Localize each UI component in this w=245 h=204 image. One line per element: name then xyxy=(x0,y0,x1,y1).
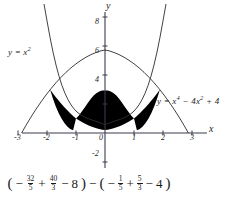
curve-label-parabola: y = x2 xyxy=(8,48,31,57)
formula-plus-2: + xyxy=(126,176,133,192)
curve-label-quartic-mid: − 4x xyxy=(180,96,200,106)
formula-minus-4: − xyxy=(146,176,153,192)
formula-fraction-32-5-denominator: 5 xyxy=(28,183,34,192)
formula-minus-2: − xyxy=(61,176,68,192)
formula-plus-1: + xyxy=(38,176,45,192)
formula-fraction-40-3-numerator: 40 xyxy=(49,175,59,183)
formula-fraction-32-5: 32 5 xyxy=(26,175,36,192)
x-axis-label: x xyxy=(209,124,213,134)
formula-between-minus: − xyxy=(89,176,96,192)
y-tick-label-4: 4 xyxy=(95,76,99,84)
curve-label-quartic-suffix: + 4 xyxy=(204,96,220,106)
x-tick-label-neg3: -3 xyxy=(14,134,21,142)
x-tick-label-neg1: -1 xyxy=(72,134,79,142)
curve-label-quartic-prefix: y = x xyxy=(157,96,177,106)
integral-result-expression: ( − 32 5 + 40 3 − 8 ) − ( − 1 5 + 5 3 − … xyxy=(6,175,172,192)
formula-constant-4: 4 xyxy=(156,176,163,192)
formula-fraction-32-5-numerator: 32 xyxy=(26,175,36,183)
formula-fraction-1-5-numerator: 1 xyxy=(118,175,124,183)
formula-fraction-5-3-denominator: 3 xyxy=(137,183,143,192)
x-tick-label-zero: 0 xyxy=(99,134,103,142)
y-tick-label-8: 8 xyxy=(95,18,99,26)
formula-open-paren-2: ( xyxy=(99,175,104,192)
x-tick-label-1: 1 xyxy=(132,134,136,142)
curve-label-quartic: y = x4 − 4x2 + 4 xyxy=(157,97,219,106)
formula-fraction-40-3-denominator: 3 xyxy=(51,183,57,192)
formula-fraction-40-3: 40 3 xyxy=(49,175,59,192)
axis-group xyxy=(18,12,207,168)
formula-fraction-5-3: 5 3 xyxy=(137,175,143,192)
formula-close-paren-1: ) xyxy=(81,175,86,192)
curve-label-parabola-text: y = x xyxy=(8,47,28,57)
formula-minus-1: − xyxy=(16,176,23,192)
formula-fraction-1-5: 1 5 xyxy=(118,175,124,192)
formula-fraction-5-3-numerator: 5 xyxy=(137,175,143,183)
shaded-area-right xyxy=(134,90,160,131)
formula-minus-3: − xyxy=(107,176,114,192)
y-tick-label-6: 6 xyxy=(95,47,99,55)
x-tick-label-2: 2 xyxy=(161,134,165,142)
formula-open-paren-1: ( xyxy=(8,175,13,192)
shaded-area-left xyxy=(50,90,76,131)
y-axis-label: y xyxy=(106,1,110,11)
formula-constant-8: 8 xyxy=(72,176,79,192)
x-tick-label-3: 3 xyxy=(190,134,194,142)
curve-label-parabola-exponent: 2 xyxy=(28,45,31,52)
graph-figure: y x -3 -2 -1 0 1 2 3 8 6 4 -2 y = x2 y =… xyxy=(0,0,245,204)
x-tick-label-neg2: -2 xyxy=(43,134,50,142)
y-tick-label-neg2: -2 xyxy=(92,150,99,158)
formula-fraction-1-5-denominator: 5 xyxy=(118,183,124,192)
formula-close-paren-2: ) xyxy=(165,175,170,192)
